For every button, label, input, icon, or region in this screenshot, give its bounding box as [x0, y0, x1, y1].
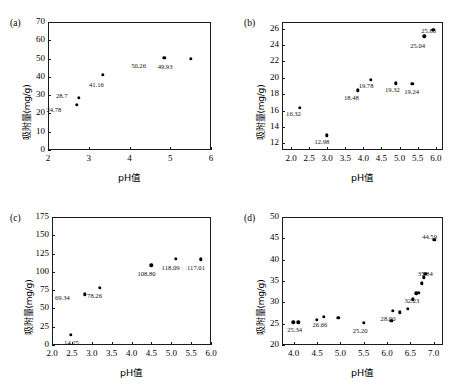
x-tick-mark: [112, 342, 113, 345]
y-tick-mark: [52, 272, 55, 273]
panel-tag: (d): [244, 213, 255, 223]
y-tick-mark: [48, 95, 51, 96]
y-tick-label: 20: [255, 72, 279, 82]
data-point-label: 18.48: [344, 94, 359, 101]
x-tick-mark: [211, 342, 212, 345]
y-tick-label: 60: [19, 34, 45, 44]
data-point-label: 14.25: [64, 339, 79, 346]
data-point-label: 44.59: [422, 233, 437, 240]
chart-panel-b: (b)12141618202224262.02.53.03.54.04.55.0…: [232, 0, 464, 195]
y-tick-mark: [282, 61, 285, 62]
y-axis-title: 吸附量(mg/g): [20, 85, 33, 140]
data-point-label: 19.78: [359, 82, 374, 89]
x-tick-label: 6.0: [197, 348, 225, 358]
x-tick-mark: [317, 342, 318, 345]
y-tick-label: 24: [255, 39, 279, 49]
y-tick-mark: [48, 113, 51, 114]
data-point-label: 32.23: [404, 297, 419, 304]
x-tick-mark: [363, 147, 364, 150]
y-tick-mark: [48, 150, 51, 151]
panel-tag: (c): [10, 213, 21, 223]
data-point-label: 118.09: [162, 264, 180, 271]
x-tick-mark: [434, 342, 435, 345]
y-tick-label: 125: [21, 248, 49, 258]
data-point-label: 16.32: [286, 110, 301, 117]
panel-tag: (b): [244, 18, 255, 28]
x-tick-mark: [294, 342, 295, 345]
y-tick-mark: [282, 324, 285, 325]
y-tick-mark: [48, 40, 51, 41]
y-tick-mark: [52, 235, 55, 236]
y-tick-mark: [48, 77, 51, 78]
x-tick-mark: [436, 147, 437, 150]
data-point-label: 25.20: [353, 327, 368, 334]
x-tick-label: 7.0: [420, 348, 448, 358]
data-point-label: 117.01: [187, 264, 205, 271]
x-tick-label: 4: [116, 153, 144, 163]
y-tick-mark: [282, 238, 285, 239]
y-tick-label: 150: [21, 229, 49, 239]
data-point-label: 19.32: [385, 86, 400, 93]
y-tick-mark: [52, 345, 55, 346]
chart-panel-a: (a)01020304050607023456吸附量(mg/g)pH值24.78…: [0, 0, 232, 195]
x-tick-mark: [211, 147, 212, 150]
y-tick-mark: [282, 217, 285, 218]
x-tick-mark: [410, 342, 411, 345]
x-tick-label: 6: [197, 153, 225, 163]
data-point-label: 41.16: [89, 81, 104, 88]
x-tick-mark: [418, 147, 419, 150]
x-tick-mark: [327, 147, 328, 150]
x-tick-mark: [291, 147, 292, 150]
data-point-label: 78.26: [87, 292, 102, 299]
y-tick-mark: [52, 217, 55, 218]
y-tick-label: 50: [255, 211, 279, 221]
y-tick-mark: [282, 78, 285, 79]
plot-area: [52, 217, 211, 345]
data-point-label: 69.34: [55, 294, 70, 301]
plot-area: [48, 22, 211, 150]
y-axis-title: 吸附量(mg/g): [22, 280, 35, 335]
x-tick-mark: [381, 147, 382, 150]
y-tick-label: 40: [255, 254, 279, 264]
x-tick-mark: [130, 147, 131, 150]
x-tick-mark: [170, 147, 171, 150]
x-axis-title: pH值: [48, 170, 211, 184]
figure-panel-grid: (a)01020304050607023456吸附量(mg/g)pH值24.78…: [0, 0, 464, 389]
y-tick-mark: [282, 281, 285, 282]
chart-panel-d: (d)202530354045504.04.55.05.56.06.57.0吸附…: [232, 195, 464, 389]
data-point-label: 50.26: [131, 62, 146, 69]
x-axis-title: pH值: [282, 170, 443, 184]
y-tick-mark: [48, 22, 51, 23]
y-tick-label: 22: [255, 55, 279, 65]
x-tick-mark: [151, 342, 152, 345]
x-tick-mark: [191, 342, 192, 345]
x-tick-label: 3: [75, 153, 103, 163]
y-tick-mark: [282, 302, 285, 303]
x-axis-title: pH值: [282, 365, 443, 379]
data-point-label: 26.66: [313, 321, 328, 328]
x-tick-label: 5: [156, 153, 184, 163]
plot-area: [282, 217, 443, 345]
y-tick-mark: [282, 29, 285, 30]
y-tick-mark: [52, 327, 55, 328]
y-tick-label: 70: [19, 16, 45, 26]
x-tick-mark: [48, 147, 49, 150]
x-tick-mark: [89, 147, 90, 150]
y-tick-label: 20: [255, 339, 279, 349]
x-tick-mark: [132, 342, 133, 345]
y-tick-mark: [282, 94, 285, 95]
x-tick-mark: [345, 147, 346, 150]
x-tick-mark: [400, 147, 401, 150]
y-tick-mark: [282, 143, 285, 144]
data-point-label: 25.86: [421, 27, 436, 34]
data-point-label: 24.78: [47, 106, 62, 113]
y-tick-mark: [48, 59, 51, 60]
chart-panel-c: (c)02550751001251501752.02.53.03.54.04.5…: [0, 195, 232, 389]
x-tick-mark: [92, 342, 93, 345]
y-tick-mark: [282, 345, 285, 346]
y-tick-mark: [52, 254, 55, 255]
data-point-label: 49.93: [158, 63, 173, 70]
y-tick-label: 26: [255, 23, 279, 33]
x-tick-mark: [364, 342, 365, 345]
y-tick-label: 175: [21, 211, 49, 221]
